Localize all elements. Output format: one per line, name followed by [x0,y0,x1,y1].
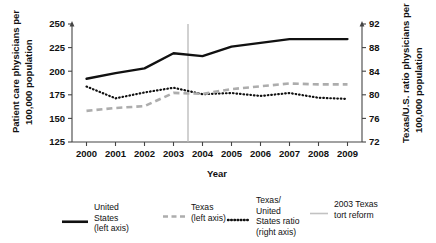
left-tick-label: 175 [49,89,66,100]
x-tick-label: 2004 [192,148,214,159]
x-axis-ticks: 2000200120022003200420052006200720082009 [76,142,358,159]
right-tick-label: 92 [369,18,380,29]
legend-label: States [94,213,118,223]
right-tick-label: 84 [369,66,380,77]
left-axis-title-line1: Patient care physicians per [10,10,21,133]
x-tick-label: 2000 [76,148,97,159]
x-tick-label: 2008 [308,148,329,159]
x-tick-label: 2009 [337,148,358,159]
left-axis-ticks: 125150175200225250 [49,18,72,147]
right-axis-ticks: 727680848892 [362,18,380,147]
chart-legend: UnitedStates(left axis)Texas(left axis)T… [62,195,378,237]
x-tick-label: 2005 [221,148,243,159]
right-axis-title-line1: Texas/U.S. ratio physicians per [400,3,411,143]
x-tick-label: 2006 [250,148,271,159]
legend-label: Texas/ [256,195,281,205]
right-tick-label: 76 [369,113,380,124]
left-tick-label: 250 [49,18,65,29]
legend-label: (left axis) [191,213,226,223]
right-tick-label: 80 [369,89,380,100]
left-tick-label: 125 [49,136,66,147]
x-tick-label: 2003 [163,148,184,159]
legend-label: Texas [191,202,213,212]
legend-label: tort reform [334,210,374,220]
x-axis-title: Year [207,168,227,179]
legend-label: (left axis) [94,223,129,233]
left-tick-label: 200 [49,66,65,77]
legend-label: United [256,206,281,216]
x-tick-label: 2007 [279,148,300,159]
chart-container: 125150175200225250 727680848892 20002001… [0,0,436,243]
legend-label: 2003 Texas [334,199,378,209]
legend-label: States ratio [256,216,300,226]
left-tick-label: 150 [49,113,65,124]
right-tick-label: 88 [369,42,380,53]
left-tick-label: 225 [49,42,66,53]
dual-axis-line-chart: 125150175200225250 727680848892 20002001… [0,0,436,243]
left-axis-title-line2: 100,000 population [23,39,34,125]
x-tick-label: 2001 [105,148,127,159]
legend-label: (right axis) [256,227,296,237]
right-tick-label: 72 [369,136,380,147]
x-tick-label: 2002 [134,148,155,159]
legend-label: United [94,202,119,212]
series-line-united-states [87,39,348,79]
right-axis-title-line2: 100,000 population [413,47,424,133]
